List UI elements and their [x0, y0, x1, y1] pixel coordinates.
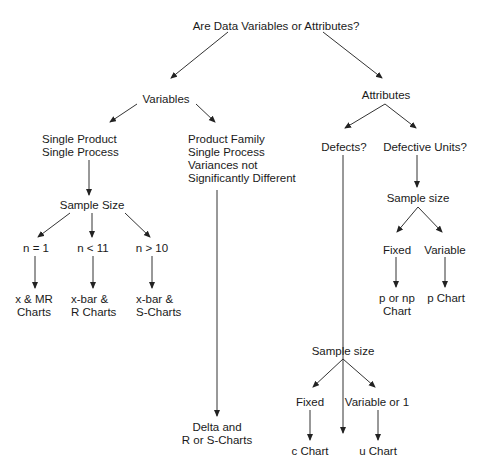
node-du-sample-size: Sample size	[387, 192, 450, 205]
node-single-product: Single Product Single Process	[42, 133, 119, 159]
node-xbar-s-charts: x-bar & S-Charts	[136, 293, 181, 319]
node-p-chart: p Chart	[427, 292, 465, 305]
node-d-fixed: Fixed	[296, 396, 324, 409]
node-n-less-11: n < 11	[77, 242, 108, 255]
node-du-variable: Variable	[424, 244, 465, 257]
node-variables: Variables	[142, 93, 189, 106]
node-x-mr-charts: x & MR Charts	[15, 293, 53, 319]
flowchart: Are Data Variables or Attributes? Variab…	[0, 0, 479, 468]
node-defective-units: Defective Units?	[383, 141, 467, 154]
node-sample-size: Sample Size	[60, 199, 125, 212]
node-delta-charts: Delta and R or S-Charts	[182, 421, 252, 447]
node-u-chart: u Chart	[359, 445, 397, 458]
node-c-chart: c Chart	[291, 445, 328, 458]
node-n-greater-10: n > 10	[136, 242, 168, 255]
node-attributes: Attributes	[362, 89, 411, 102]
node-p-np-chart: p or np Chart	[379, 292, 415, 318]
node-xbar-r-charts: x-bar & R Charts	[71, 293, 116, 319]
node-product-family: Product Family Single Process Variances …	[188, 133, 296, 185]
node-d-sample-size: Sample size	[312, 345, 375, 358]
root-question: Are Data Variables or Attributes?	[193, 20, 360, 33]
node-d-variable: Variable or 1	[345, 396, 409, 409]
node-n-equals-1: n = 1	[23, 242, 49, 255]
node-defects: Defects?	[321, 141, 366, 154]
node-du-fixed: Fixed	[383, 244, 411, 257]
